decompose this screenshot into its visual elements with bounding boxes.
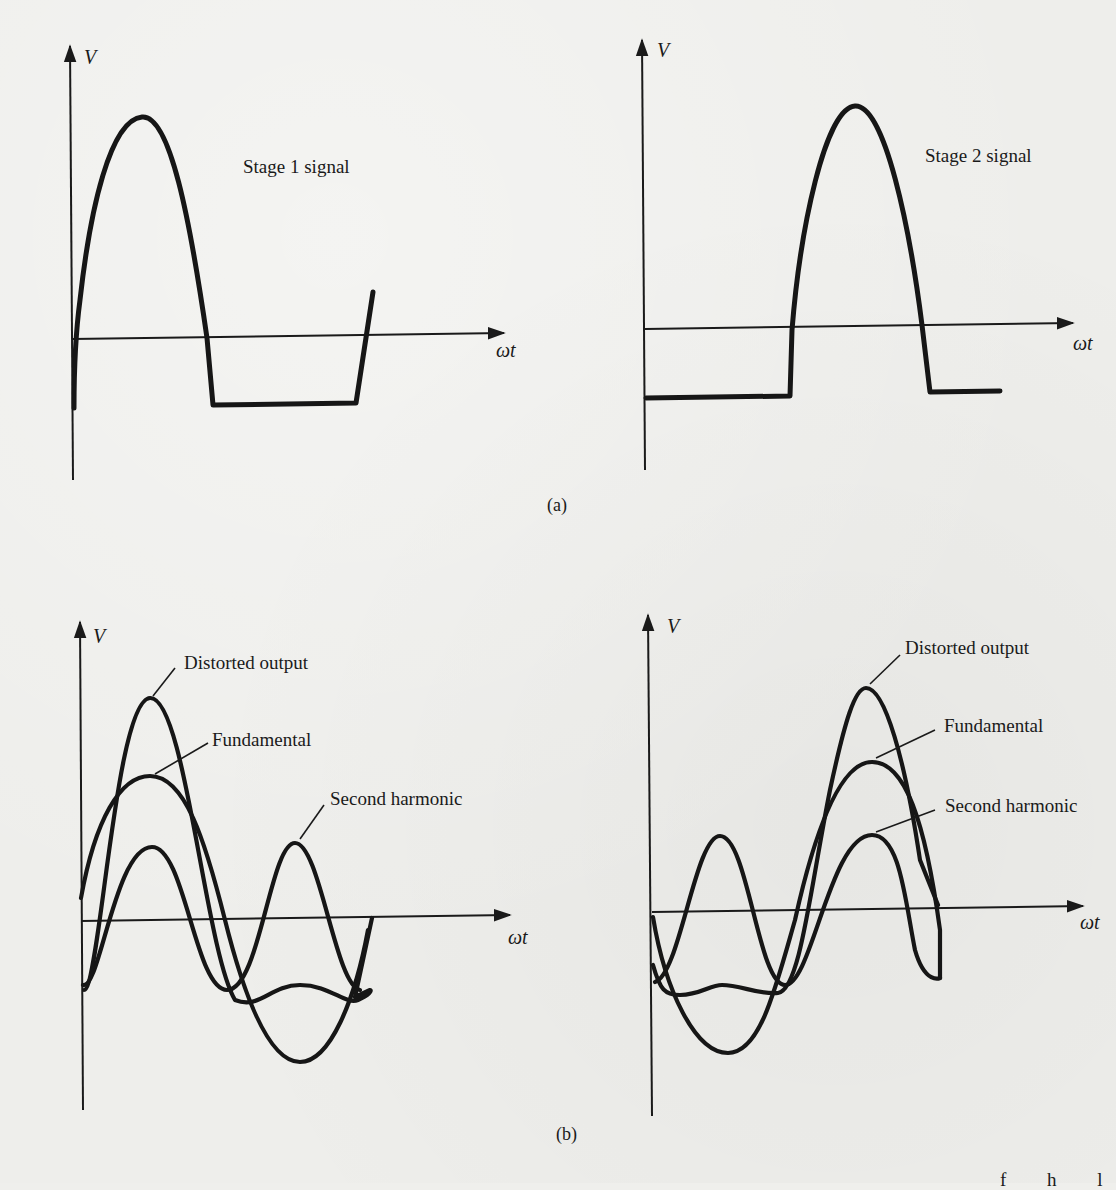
plot-a-left-v-label: V [84, 47, 96, 67]
stage-1-signal-label: Stage 1 signal [243, 157, 350, 176]
plot-b-left-wt-label: ωt [508, 927, 528, 947]
second-harmonic-label-right: Second harmonic [945, 796, 1077, 815]
v-axis [648, 615, 652, 1116]
plot-a-right-v-label: V [657, 40, 669, 60]
fundamental-curve [653, 762, 940, 1053]
plot-a-right [642, 40, 1073, 470]
second-harmonic-label-left: Second harmonic [330, 789, 462, 808]
second-harmonic-leader [876, 810, 935, 832]
plot-b-left-v-label: V [93, 626, 105, 646]
fundamental-label-right: Fundamental [944, 716, 1043, 735]
plot-a-left [70, 46, 504, 480]
plot-a-right-wt-label: ωt [1073, 333, 1093, 353]
fundamental-leader [876, 730, 935, 758]
plot-b-right [648, 615, 1083, 1116]
distorted-output-label-right: Distorted output [905, 638, 1029, 657]
v-axis [80, 622, 83, 1110]
plot-a-left-wt-label: ωt [496, 340, 516, 360]
fundamental-curve [81, 776, 368, 1062]
wt-axis [652, 906, 1083, 912]
plot-b-left [80, 622, 510, 1110]
second-harmonic-leader [300, 805, 324, 839]
stage-2-signal-label: Stage 2 signal [925, 146, 1032, 165]
plot-b-right-v-label: V [667, 616, 679, 636]
fundamental-label-left: Fundamental [212, 730, 311, 749]
panel-b-caption: (b) [556, 1125, 577, 1143]
wt-axis [72, 333, 504, 339]
plot-b-right-wt-label: ωt [1080, 912, 1100, 932]
wt-axis [645, 323, 1073, 329]
distorted-output-curve [653, 688, 938, 995]
panel-a-caption: (a) [547, 496, 567, 514]
distorted-output-label-left: Distorted output [184, 653, 308, 672]
wt-axis [81, 915, 510, 921]
v-axis [70, 46, 73, 480]
distorted-leader [153, 668, 175, 696]
v-axis [642, 40, 645, 470]
distorted-leader [870, 655, 900, 684]
cut-off-body-text: f h l [1000, 1170, 1116, 1189]
